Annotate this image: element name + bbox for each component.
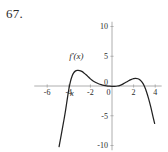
axes-group xyxy=(34,22,161,151)
y-tick-label: 10 xyxy=(100,22,108,31)
graph-figure: -6-4-2024 -10-50510 f'(x) x xyxy=(0,0,168,152)
curve-label: f'(x) xyxy=(69,51,83,61)
x-axis-label: x xyxy=(69,89,74,98)
x-axis-tick-labels: -6-4-2024 xyxy=(44,88,157,97)
figure-page: 67. -6-4-2024 -10-50510 f'(x) x xyxy=(0,0,168,152)
x-tick-label: -2 xyxy=(87,88,94,97)
x-tick-label: 4 xyxy=(153,88,157,97)
x-tick-label: 0 xyxy=(107,88,111,97)
x-tick-label: -6 xyxy=(44,88,51,97)
plot-svg: -6-4-2024 -10-50510 f'(x) x xyxy=(0,0,168,152)
x-tick-label: 2 xyxy=(132,88,136,97)
y-tick-label: -5 xyxy=(101,112,108,121)
y-tick-label: -10 xyxy=(97,141,108,150)
y-tick-label: 5 xyxy=(104,52,108,61)
